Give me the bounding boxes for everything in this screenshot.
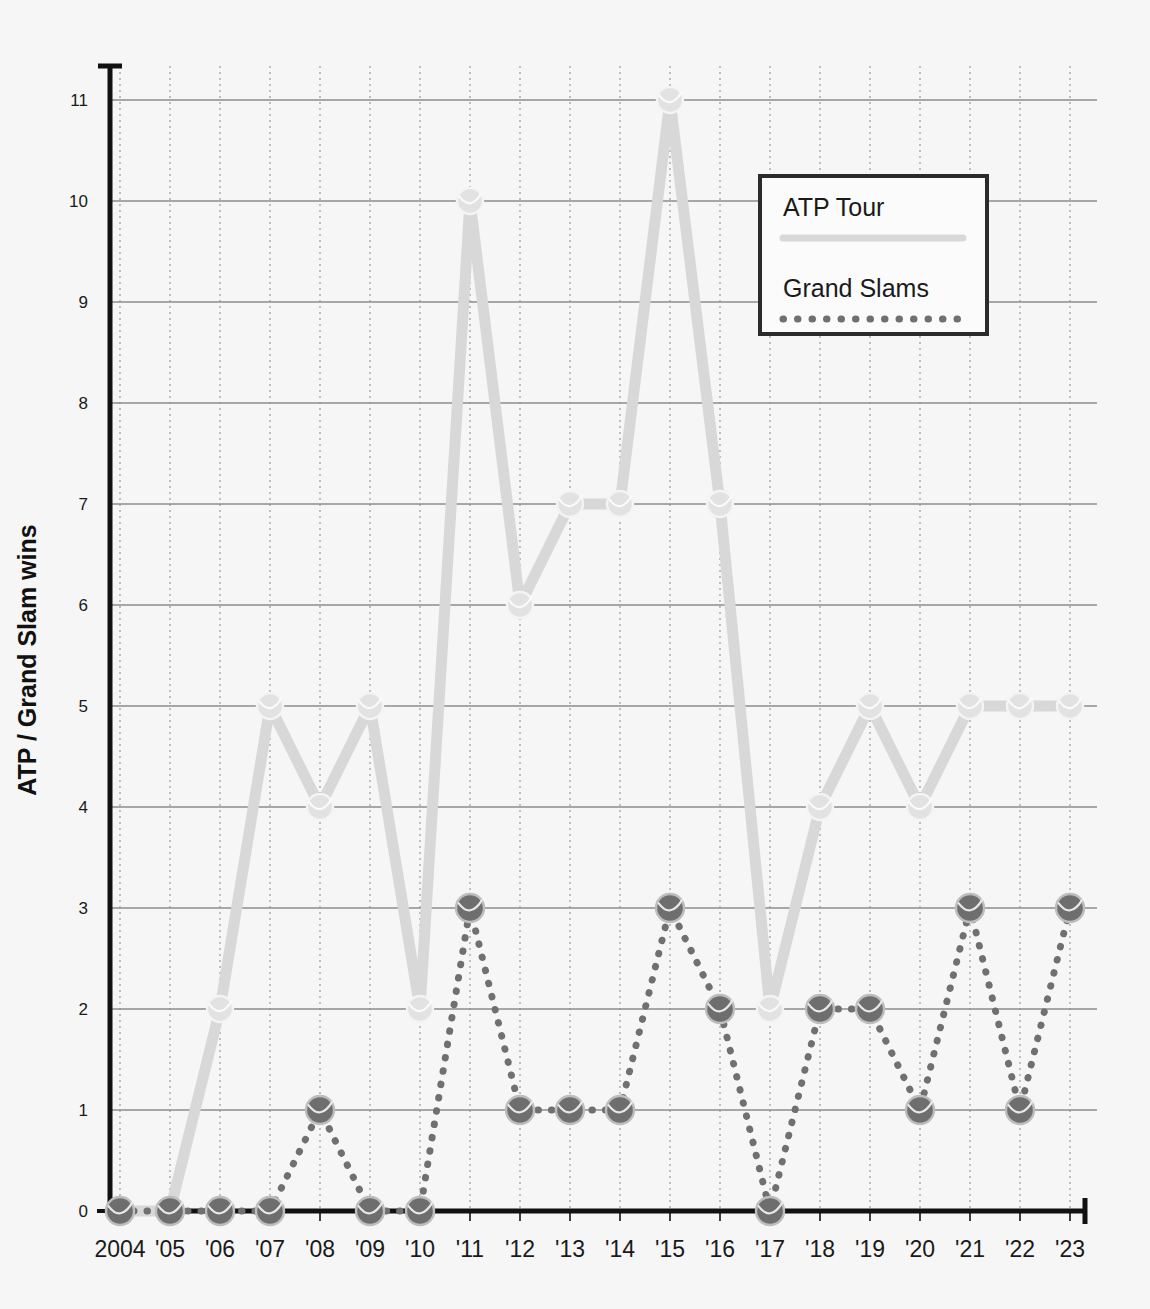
data-point-marker [957, 693, 983, 719]
data-point-marker [906, 1096, 934, 1124]
y-tick-label: 1 [79, 1101, 88, 1120]
data-point-marker [1056, 894, 1084, 922]
x-tick-label: '17 [755, 1236, 785, 1262]
legend-label-grand-slams: Grand Slams [783, 274, 929, 302]
x-tick-label: '16 [705, 1236, 735, 1262]
y-axis-title: ATP / Grand Slam wins [13, 524, 41, 795]
x-tick-label: '14 [605, 1236, 635, 1262]
data-point-marker [706, 995, 734, 1023]
data-point-marker [1057, 693, 1083, 719]
data-point-marker [106, 1197, 134, 1225]
y-tick-label: 3 [79, 899, 88, 918]
data-point-marker [556, 1096, 584, 1124]
data-point-marker [956, 894, 984, 922]
data-point-marker [156, 1197, 184, 1225]
y-tick-label: 4 [79, 798, 88, 817]
data-point-marker [756, 1197, 784, 1225]
y-tick-label: 9 [79, 293, 88, 312]
line-chart: 01234567891011 2004'05'06'07'08'09'10'11… [0, 0, 1150, 1309]
x-tick-label: 2004 [94, 1236, 145, 1262]
y-axis-title-label: ATP / Grand Slam wins [13, 524, 41, 795]
data-point-marker [457, 188, 483, 214]
x-tick-label: '21 [955, 1236, 985, 1262]
x-tick-label: '07 [255, 1236, 285, 1262]
x-tick-label: '05 [155, 1236, 185, 1262]
x-tick-label: '12 [505, 1236, 535, 1262]
data-point-marker [607, 491, 633, 517]
data-point-marker [1006, 1096, 1034, 1124]
x-tick-label: '19 [855, 1236, 885, 1262]
y-tick-label: 5 [79, 697, 88, 716]
data-point-marker [407, 996, 433, 1022]
x-tick-label: '11 [456, 1236, 484, 1262]
y-tick-label: 2 [79, 1000, 88, 1019]
y-tick-label: 6 [79, 596, 88, 615]
data-point-marker [507, 592, 533, 618]
data-point-marker [606, 1096, 634, 1124]
data-point-marker [856, 995, 884, 1023]
x-tick-label: '09 [355, 1236, 385, 1262]
y-tick-label: 11 [70, 91, 88, 110]
y-tick-label: 10 [69, 192, 88, 211]
data-point-marker [206, 1197, 234, 1225]
data-point-marker [506, 1096, 534, 1124]
data-point-marker [857, 693, 883, 719]
data-point-marker [256, 1197, 284, 1225]
data-point-marker [306, 1096, 334, 1124]
x-tick-label: '08 [305, 1236, 335, 1262]
data-point-marker [1007, 693, 1033, 719]
data-point-marker [207, 996, 233, 1022]
data-point-marker [656, 894, 684, 922]
x-tick-label: '13 [555, 1236, 585, 1262]
chart-container: 01234567891011 2004'05'06'07'08'09'10'11… [0, 0, 1150, 1309]
x-tick-label: '10 [405, 1236, 435, 1262]
y-tick-label: 7 [79, 495, 88, 514]
data-point-marker [807, 794, 833, 820]
x-tick-label: '06 [205, 1236, 235, 1262]
data-point-marker [406, 1197, 434, 1225]
legend-label-atp-tour: ATP Tour [783, 193, 884, 221]
data-point-marker [557, 491, 583, 517]
data-point-marker [907, 794, 933, 820]
data-point-marker [456, 894, 484, 922]
data-point-marker [707, 491, 733, 517]
data-point-marker [806, 995, 834, 1023]
data-point-marker [357, 693, 383, 719]
data-point-marker [257, 693, 283, 719]
x-tick-label: '20 [905, 1236, 935, 1262]
x-tick-label: '15 [655, 1236, 685, 1262]
y-tick-label: 0 [79, 1202, 88, 1221]
data-point-marker [307, 794, 333, 820]
data-point-marker [757, 996, 783, 1022]
x-tick-label: '18 [805, 1236, 835, 1262]
data-point-marker [356, 1197, 384, 1225]
data-point-marker [657, 87, 683, 113]
y-tick-label: 8 [79, 394, 88, 413]
x-tick-label: '22 [1005, 1236, 1035, 1262]
x-tick-label: '23 [1055, 1236, 1085, 1262]
chart-legend: ATP Tour Grand Slams [760, 176, 987, 334]
